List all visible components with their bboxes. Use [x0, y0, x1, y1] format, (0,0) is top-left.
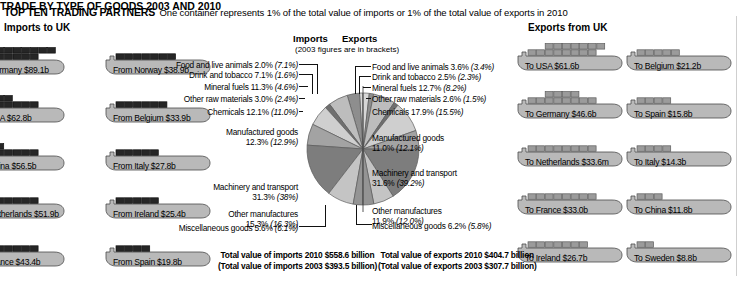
container-box: [4, 150, 12, 156]
ship-label: From China $56.5b: [0, 161, 36, 171]
container-box: [133, 54, 141, 60]
ship-label: To China $11.8b: [634, 205, 692, 215]
pie-label-text: Food and live animals 3.6% (3.4%): [372, 62, 494, 72]
container-box: [554, 146, 562, 152]
pie-label-text: Food and live animals 2.0% (7.1%): [176, 60, 298, 70]
container-box: [637, 98, 645, 104]
pie-label-text: Mineral fuels 11.3% (4.6%): [204, 82, 298, 92]
container-box: [537, 194, 545, 200]
ship-label: From France $43.4b: [0, 257, 40, 267]
leader-line-import-misc: [299, 226, 325, 227]
pie-label-values: 31.6% (39.2%): [372, 178, 457, 188]
pie-label-values: 31.3% (38%): [213, 192, 298, 202]
imports-totals: Total value of imports 2010 $558.6 billi…: [218, 250, 377, 271]
container-box: [13, 198, 21, 204]
container-box: [545, 194, 553, 200]
leader-line-export-misc: [356, 224, 372, 225]
container-box: [562, 92, 570, 98]
container-box: [580, 146, 588, 152]
pie-label-import-miscellaneous-goods: Miscellaneous goods 5.6% (6.1%): [179, 223, 298, 233]
ship-from-ireland-25-4b: From Ireland $25.4b: [104, 182, 212, 222]
ship-from-germany-89-1b: From Germany $89.1b: [0, 38, 66, 78]
container-box: [571, 146, 579, 152]
container-box: [671, 50, 679, 56]
container-box: [13, 102, 21, 108]
container-box: [646, 194, 654, 200]
container-box: [588, 44, 596, 50]
pie-label-text: Mineral fuels 12.7% (8.2%): [372, 83, 466, 93]
ship-from-france-43-4b: From France $43.4b: [0, 230, 66, 270]
container-box: [4, 96, 12, 102]
pie-label-import-chemicals: Chemicals 12.1% (11.0%): [207, 107, 298, 117]
container-box: [125, 102, 133, 108]
container-box: [116, 54, 124, 60]
container-box: [4, 102, 12, 108]
pie-label-export-miscellaneous-goods: Miscellaneous goods 6.2% (5.8%): [372, 221, 491, 231]
container-box: [4, 246, 12, 252]
container-box: [0, 246, 4, 252]
container-box: [142, 54, 150, 60]
container-box: [654, 194, 662, 200]
container-box: [159, 102, 167, 108]
container-box: [13, 246, 21, 252]
container-box: [537, 146, 545, 152]
pie-label-import-manufactured-goods: Manufactured goods12.3% (12.9%): [226, 127, 298, 147]
pie-label-text: Drink and tobacco 2.5% (2.3%): [372, 72, 481, 82]
container-box: [562, 146, 570, 152]
container-box: [528, 242, 536, 248]
ship-label: From Germany $89.1b: [0, 65, 49, 75]
ship-label: To Spain $15.8b: [634, 109, 692, 119]
container-box: [30, 246, 38, 252]
container-box: [0, 102, 4, 108]
container-box: [0, 54, 4, 60]
leader-riser-import-0: [317, 64, 318, 94]
container-box: [571, 194, 579, 200]
container-box: [125, 54, 133, 60]
container-box: [116, 246, 124, 252]
container-box: [580, 44, 588, 50]
container-box: [663, 98, 671, 104]
container-box: [537, 50, 545, 56]
ship-from-usa-62-8b: From USA $62.8b: [0, 86, 66, 126]
container-box: [654, 146, 662, 152]
pie-label-export-drink-and-tobacco: Drink and tobacco 2.5% (2.3%): [372, 72, 481, 82]
container-box: [30, 102, 38, 108]
container-box: [554, 98, 562, 104]
container-box: [588, 146, 596, 152]
pie-label-text: Miscellaneous goods 5.6% (6.1%): [179, 223, 298, 233]
container-box: [637, 146, 645, 152]
pie-label-import-other-raw-materials: Other raw materials 3.0% (2.4%): [184, 94, 298, 104]
container-box: [554, 92, 562, 98]
ship-from-italy-27-8b: From Italy $27.8b: [104, 134, 212, 174]
ship-to-spain-15-8b: To Spain $15.8b: [625, 82, 733, 122]
container-box: [133, 150, 141, 156]
container-box: [554, 242, 562, 248]
container-box: [646, 242, 654, 248]
container-box: [150, 102, 158, 108]
container-box: [537, 98, 545, 104]
container-box: [22, 246, 30, 252]
container-box: [13, 48, 21, 54]
container-box: [554, 194, 562, 200]
leader-line-export-3: [366, 98, 371, 99]
pie-exports-label: Exports: [342, 33, 377, 44]
container-box: [22, 102, 30, 108]
container-box: [13, 54, 21, 60]
pie-label-text: Chemicals 17.9% (15.5%): [372, 107, 463, 117]
ship-from-belgium-33-9b: From Belgium $33.9b: [104, 86, 212, 126]
container-box: [562, 194, 570, 200]
pie-label-export-other-raw-materials: Other raw materials 2.6% (1.5%): [372, 94, 486, 104]
container-box: [588, 194, 596, 200]
container-box: [22, 150, 30, 156]
ship-label: From Italy $27.8b: [113, 161, 176, 171]
container-box: [554, 50, 562, 56]
header-subtitle: One container represents 1% of the total…: [159, 7, 567, 18]
container-box: [0, 150, 4, 156]
pie-label-import-food-and-live-animals: Food and live animals 2.0% (7.1%): [176, 60, 298, 70]
pie-label-import-machinery-and-transport: Machinery and transport31.3% (38%): [213, 182, 298, 202]
container-box: [646, 98, 654, 104]
container-box: [554, 44, 562, 50]
container-box: [142, 150, 150, 156]
container-box: [580, 50, 588, 56]
pie-label-text: Chemicals 12.1% (11.0%): [207, 107, 298, 117]
